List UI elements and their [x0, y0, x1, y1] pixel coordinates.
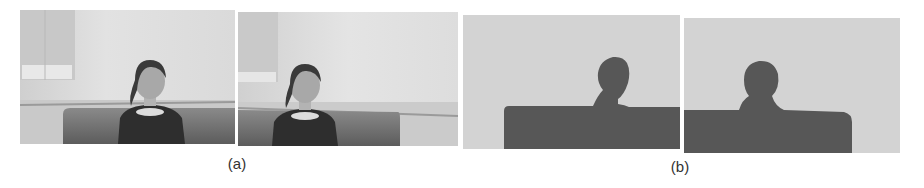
figure: (a) (b): [0, 0, 924, 188]
frame-b2: [684, 18, 900, 153]
panel-b-caption: (b): [660, 158, 700, 176]
frame-b1: [463, 15, 680, 149]
frame-a1: [20, 10, 235, 144]
panel-a-caption: (a): [217, 155, 257, 173]
frame-a2: [238, 12, 458, 146]
silhouette-mask: [463, 15, 680, 149]
photo-woman-on-sofa: [238, 12, 458, 146]
silhouette-mask: [684, 18, 900, 153]
photo-woman-on-sofa: [20, 10, 235, 144]
